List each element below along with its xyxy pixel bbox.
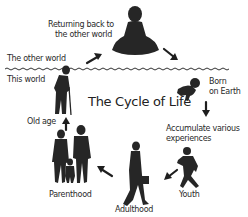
stage-label-born-line2: on Earth: [209, 87, 241, 97]
elderly-with-cane-icon: [54, 66, 71, 116]
region-label-this-world: This world: [7, 75, 45, 85]
region-label-other-world: The other world: [7, 54, 66, 64]
stage-label-born: Born on Earth: [209, 77, 241, 97]
world-divider-wave: [5, 68, 229, 70]
stage-label-returning-line2: the other world: [48, 30, 112, 40]
stage-label-experiences: Accumulate various experiences: [166, 124, 240, 144]
stage-label-experiences-line1: Accumulate various: [166, 124, 240, 134]
stage-label-youth: Youth: [179, 190, 200, 200]
stage-label-returning: Returning back to the other world: [48, 20, 112, 40]
arrow-to-adulthood-icon: [164, 170, 177, 180]
arrow-to-experiences-icon: [202, 102, 210, 117]
stage-label-experiences-line2: experiences: [166, 134, 240, 144]
stage-label-born-line1: Born: [209, 77, 241, 87]
stage-label-adulthood: Adulthood: [115, 205, 153, 215]
walking-businessman-icon: [123, 142, 149, 207]
diagram-title: The Cycle of Life: [88, 94, 191, 109]
stage-label-returning-line1: Returning back to: [48, 20, 112, 30]
arrow-to-born-icon: [164, 49, 178, 60]
stage-label-oldage: Old age: [27, 117, 56, 127]
meditating-figure-icon: [112, 6, 159, 55]
arrow-to-other-world-icon: [87, 53, 102, 63]
running-child-icon: [177, 147, 199, 188]
stage-label-parenthood: Parenthood: [49, 190, 92, 200]
family-icon: [52, 125, 91, 183]
arrow-to-oldage-icon: [62, 117, 70, 130]
arrow-to-parenthood-icon: [97, 166, 112, 176]
